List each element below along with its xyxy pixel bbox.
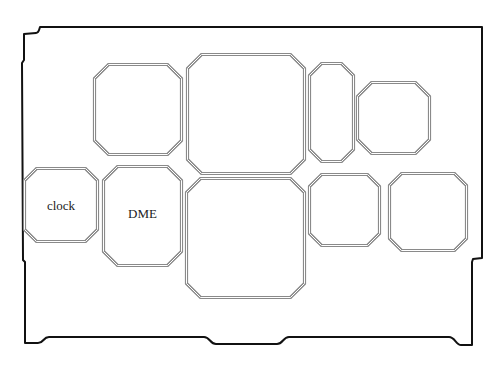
module-clock: clock <box>25 169 98 242</box>
module-label: clock <box>47 198 76 213</box>
module-dme: DME <box>104 167 182 266</box>
module-7 <box>187 179 305 298</box>
module-label: DME <box>128 206 157 221</box>
module-border <box>358 83 430 154</box>
module-8 <box>310 175 380 246</box>
module-9 <box>390 174 467 251</box>
module-4 <box>358 83 430 154</box>
module-border <box>310 175 380 246</box>
module-1 <box>95 65 182 155</box>
module-border <box>188 55 305 174</box>
module-border <box>390 174 467 251</box>
module-3 <box>310 64 354 162</box>
module-border <box>310 64 354 162</box>
module-border <box>187 179 305 298</box>
module-border <box>95 65 182 155</box>
module-2 <box>188 55 305 174</box>
board-layout-diagram: clockDME <box>0 0 503 366</box>
